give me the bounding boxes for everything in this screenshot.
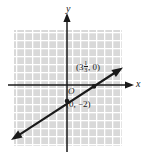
graph-canvas (0, 0, 147, 160)
point-x-intercept (92, 84, 97, 89)
x-axis-label: x (136, 79, 140, 89)
origin-label: O (68, 87, 75, 96)
x-intercept-label-close: , 0) (88, 62, 100, 72)
x-intercept-label-open: (3 (76, 62, 84, 72)
y-axis-label: y (66, 4, 70, 14)
x-intercept-label: (313, 0) (76, 60, 100, 73)
y-intercept-label: (0, −2) (66, 100, 91, 109)
graph-figure: y x O (313, 0) (0, −2) (0, 0, 147, 160)
